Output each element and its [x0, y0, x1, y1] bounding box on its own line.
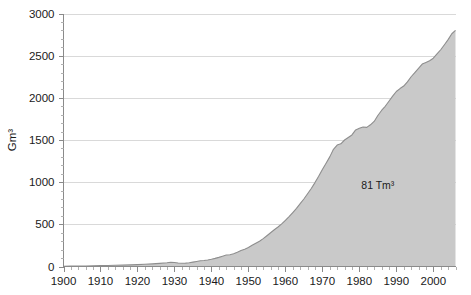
y-axis — [59, 14, 64, 268]
y-axis-title: Gm³ — [6, 129, 18, 152]
x-axis-tick-labels: 1900191019201930194019501960197019801990… — [51, 275, 446, 287]
chart-annotations: 81 Tm³ — [361, 179, 395, 191]
area-chart: 050010001500200025003000 190019101920193… — [0, 0, 471, 295]
chart-container: 050010001500200025003000 190019101920193… — [0, 0, 471, 295]
y-tick-label: 0 — [48, 261, 54, 273]
x-tick-label: 1960 — [273, 275, 299, 287]
y-tick-label: 2500 — [29, 50, 55, 62]
x-axis — [64, 267, 457, 272]
x-tick-label: 1940 — [199, 275, 225, 287]
x-tick-label: 1910 — [88, 275, 114, 287]
y-axis-title-text: Gm³ — [6, 129, 18, 152]
y-tick-label: 500 — [35, 218, 54, 230]
y-tick-label: 2000 — [29, 92, 55, 104]
annotation-total-label: 81 Tm³ — [361, 179, 395, 191]
x-tick-label: 1970 — [310, 275, 336, 287]
y-tick-label: 3000 — [29, 8, 55, 20]
y-tick-label: 1500 — [29, 134, 55, 146]
plot-series-area — [64, 30, 456, 266]
x-tick-label: 2000 — [421, 275, 447, 287]
x-tick-label: 1920 — [125, 275, 151, 287]
x-tick-label: 1990 — [384, 275, 410, 287]
x-tick-label: 1900 — [51, 275, 77, 287]
x-tick-label: 1980 — [347, 275, 373, 287]
y-tick-label: 1000 — [29, 176, 55, 188]
y-axis-tick-labels: 050010001500200025003000 — [29, 8, 55, 273]
series-area-0 — [64, 30, 456, 266]
x-tick-label: 1950 — [236, 275, 262, 287]
x-tick-label: 1930 — [162, 275, 188, 287]
